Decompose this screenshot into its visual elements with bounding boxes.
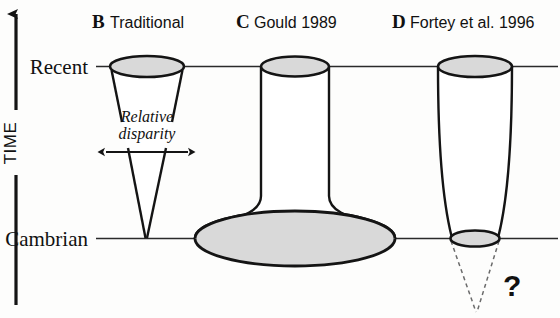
- dashed-cone-left: [451, 241, 476, 312]
- panel-d-body-fill: [438, 67, 512, 235]
- panel-c-right-profile: [329, 67, 376, 226]
- dashed-cone-icon: [451, 241, 499, 312]
- diagram-canvas: TIME Recent Cambrian B Traditional C Gou…: [0, 0, 560, 318]
- panel-b-top-ellipse: [110, 56, 184, 77]
- era-label-recent: Recent: [30, 55, 88, 79]
- panel-letter-b: B: [92, 11, 105, 32]
- disparity-diagram-figure: TIME Recent Cambrian B Traditional C Gou…: [0, 0, 560, 318]
- panel-c-stem-fill: [216, 67, 374, 225]
- panel-title-d: Fortey et al. 1996: [410, 14, 535, 31]
- panel-c-left-profile: [214, 67, 261, 226]
- panel-c-top-ellipse: [261, 57, 329, 77]
- panel-d-bottom-ellipse: [451, 231, 500, 247]
- panel-title-b: Traditional: [110, 14, 184, 31]
- axis-label-time: TIME: [1, 122, 20, 165]
- panel-b-shape: [110, 56, 184, 238]
- panel-title-c: Gould 1989: [254, 14, 337, 31]
- time-axis: TIME: [1, 14, 20, 305]
- era-label-cambrian: Cambrian: [5, 227, 88, 251]
- annotation-line-2: disparity: [119, 125, 177, 143]
- annotation-line-1: Relative: [120, 108, 173, 125]
- panel-d-shape: ?: [438, 56, 521, 312]
- panel-c-shape: [195, 57, 395, 267]
- panel-c-base-upper-arc: [195, 211, 395, 238]
- panel-d-top-ellipse: [438, 56, 512, 77]
- panel-letter-c: C: [236, 11, 250, 32]
- uncertainty-question-mark: ?: [503, 269, 521, 302]
- dashed-cone-right: [477, 241, 499, 312]
- panel-letter-d: D: [392, 11, 406, 32]
- panel-headers: B Traditional C Gould 1989 D Fortey et a…: [92, 11, 535, 32]
